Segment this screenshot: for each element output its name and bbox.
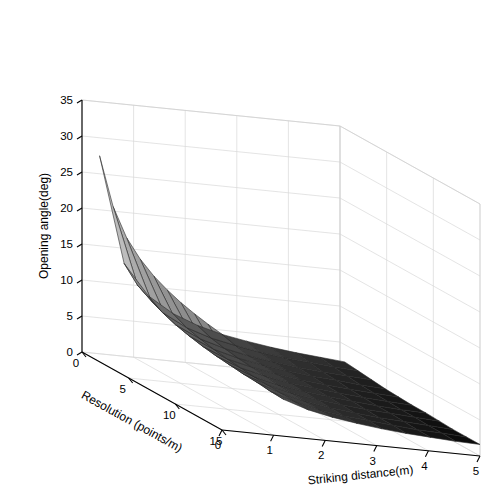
surface-plot-3d: 05101520253035051015012345Opening angle(… bbox=[0, 0, 498, 503]
y-tick-label: 3 bbox=[370, 455, 376, 467]
y-tick-mark bbox=[322, 440, 325, 446]
x-axis-title: Resolution (points/m) bbox=[79, 388, 185, 455]
grid-line bbox=[82, 136, 340, 162]
y-axis-title: Striking distance(m) bbox=[307, 463, 414, 488]
z-tick-label: 20 bbox=[60, 202, 73, 214]
y-tick-label: 5 bbox=[473, 465, 479, 477]
z-tick-mark bbox=[77, 136, 82, 139]
z-tick-mark bbox=[77, 316, 82, 319]
z-tick-mark bbox=[77, 172, 82, 175]
y-tick-label: 2 bbox=[318, 449, 324, 461]
box-edge bbox=[82, 100, 340, 126]
grid-line bbox=[82, 280, 340, 306]
z-tick-mark bbox=[77, 280, 82, 283]
box-edge bbox=[340, 126, 480, 204]
figure-canvas: 05101520253035051015012345Opening angle(… bbox=[0, 0, 498, 503]
grid-line bbox=[340, 198, 480, 276]
z-tick-label: 25 bbox=[60, 166, 73, 178]
x-tick-label: 5 bbox=[119, 383, 125, 395]
surface-mesh bbox=[100, 156, 480, 445]
y-tick-mark bbox=[374, 446, 377, 452]
y-tick-label: 1 bbox=[266, 444, 272, 456]
grid-line bbox=[340, 306, 480, 384]
grid-line bbox=[340, 162, 480, 240]
x-tick-label: 0 bbox=[73, 357, 79, 369]
z-axis-title: Opening angle(deg) bbox=[37, 173, 51, 279]
z-tick-mark bbox=[77, 100, 82, 103]
y-tick-mark bbox=[425, 451, 428, 457]
z-tick-mark bbox=[77, 352, 82, 355]
z-tick-mark bbox=[77, 208, 82, 211]
grid-line bbox=[340, 270, 480, 348]
z-tick-label: 35 bbox=[60, 94, 73, 106]
grid-line bbox=[340, 234, 480, 312]
surface-patch bbox=[113, 206, 151, 300]
y-tick-label: 0 bbox=[215, 439, 221, 451]
z-tick-label: 30 bbox=[60, 130, 73, 142]
y-tick-mark bbox=[271, 435, 274, 441]
z-tick-mark bbox=[77, 244, 82, 247]
y-tick-label: 4 bbox=[421, 460, 428, 472]
z-tick-label: 10 bbox=[60, 274, 73, 286]
z-tick-label: 15 bbox=[60, 238, 73, 250]
grid-line bbox=[82, 172, 340, 198]
y-tick-mark bbox=[477, 456, 480, 462]
z-tick-label: 5 bbox=[67, 310, 73, 322]
x-tick-label: 10 bbox=[163, 409, 176, 421]
